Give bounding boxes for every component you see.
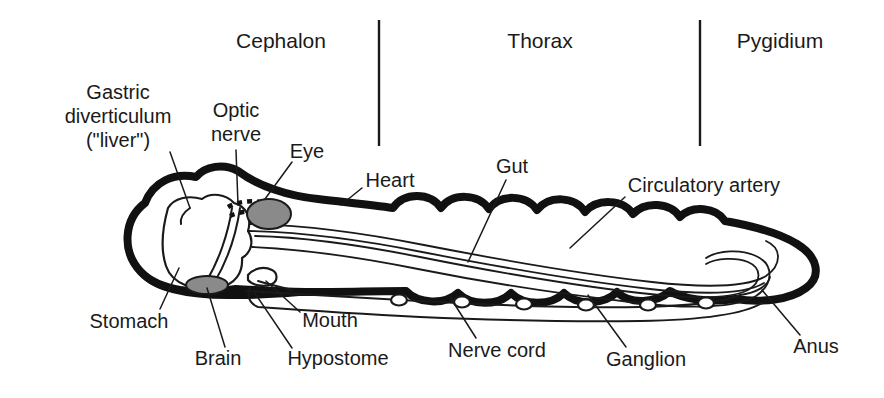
part-label-gastric-diverticulum: diverticulum	[65, 105, 172, 127]
leader-line-optic-nerve	[236, 150, 238, 205]
circulatory-artery-organ-lower	[248, 231, 764, 293]
ganglion-bead	[640, 300, 656, 311]
region-header-band: Cephalon Thorax Pygidium	[236, 20, 823, 146]
part-label-brain: Brain	[195, 347, 242, 369]
region-label-thorax: Thorax	[507, 29, 573, 52]
ganglion-bead	[516, 299, 532, 310]
ganglion-bead	[391, 295, 407, 306]
part-label-gastric-diverticulum: ("liver")	[86, 129, 150, 151]
ganglion-bead	[698, 298, 714, 309]
part-label-heart: Heart	[366, 169, 415, 191]
anatomy-figure-root: Cephalon Thorax Pygidium	[0, 0, 884, 398]
trilobite-anatomy-diagram: Cephalon Thorax Pygidium	[0, 0, 884, 398]
part-label-gastric-diverticulum: Gastric	[86, 81, 149, 103]
part-label-gut: Gut	[496, 155, 529, 177]
part-label-ganglion: Ganglion	[606, 348, 686, 370]
part-label-anus: Anus	[793, 335, 839, 357]
part-label-stomach: Stomach	[90, 310, 169, 332]
part-label-eye: Eye	[290, 140, 324, 162]
eye-organ	[247, 199, 291, 229]
part-label-circulatory-artery: Circulatory artery	[628, 174, 780, 196]
part-label-nerve-cord: Nerve cord	[448, 339, 546, 361]
region-label-cephalon: Cephalon	[236, 29, 326, 52]
part-label-optic-nerve: Optic	[213, 99, 260, 121]
part-label-mouth: Mouth	[302, 309, 358, 331]
region-label-pygidium: Pygidium	[737, 29, 823, 52]
part-label-optic-nerve: nerve	[211, 123, 261, 145]
part-label-hypostome: Hypostome	[287, 347, 388, 369]
brain-organ	[186, 276, 228, 294]
leader-line-gut	[468, 180, 506, 262]
